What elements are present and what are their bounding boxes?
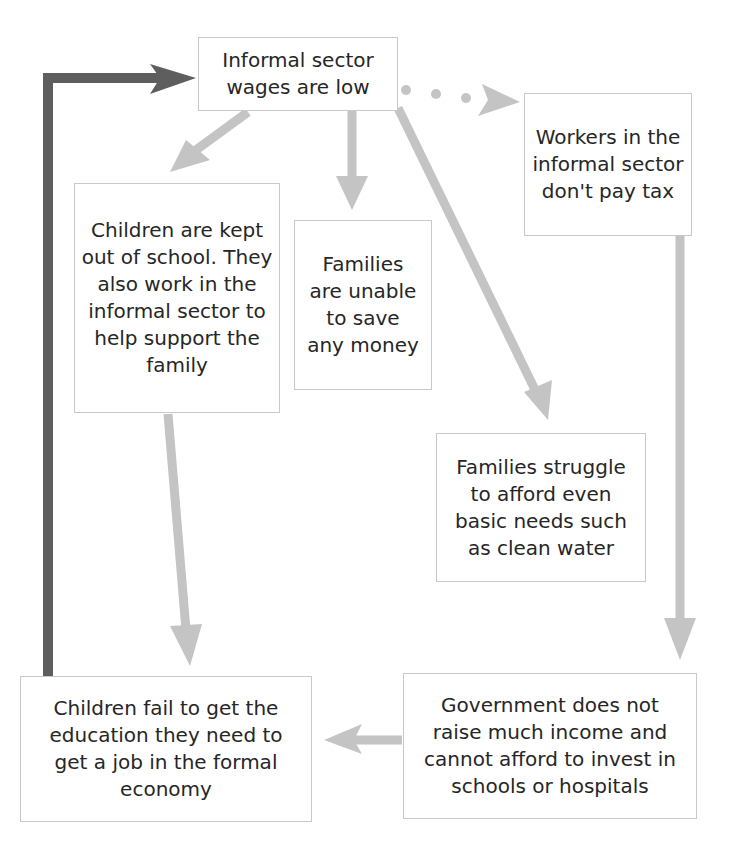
arrow-government-to-fail xyxy=(324,724,402,754)
node-wages-low-text: Informal sector wages are low xyxy=(205,47,391,101)
node-wages-low: Informal sector wages are low xyxy=(198,37,398,111)
node-no-tax: Workers in the informal sector don't pay… xyxy=(524,93,692,236)
node-government: Government does not raise much income an… xyxy=(403,673,697,819)
arrow-no-tax-to-government xyxy=(664,236,696,660)
arrow-wages-to-save xyxy=(336,110,368,210)
node-fail-education-text: Children fail to get the education they … xyxy=(35,695,297,803)
node-fail-education: Children fail to get the education they … xyxy=(20,676,312,822)
node-basic-needs: Families struggle to afford even basic n… xyxy=(436,433,646,582)
arrow-wages-to-no-tax xyxy=(401,84,520,116)
node-cannot-save: Families are unable to save any money xyxy=(294,220,432,390)
node-children-out-text: Children are kept out of school. They al… xyxy=(81,217,273,379)
node-basic-needs-text: Families struggle to afford even basic n… xyxy=(449,454,633,562)
node-children-out: Children are kept out of school. They al… xyxy=(74,183,280,413)
node-no-tax-text: Workers in the informal sector don't pay… xyxy=(531,124,685,205)
arrow-children-to-fail xyxy=(168,414,202,666)
node-cannot-save-text: Families are unable to save any money xyxy=(305,251,421,359)
node-government-text: Government does not raise much income an… xyxy=(418,692,682,800)
arrow-wages-to-children xyxy=(170,112,248,172)
